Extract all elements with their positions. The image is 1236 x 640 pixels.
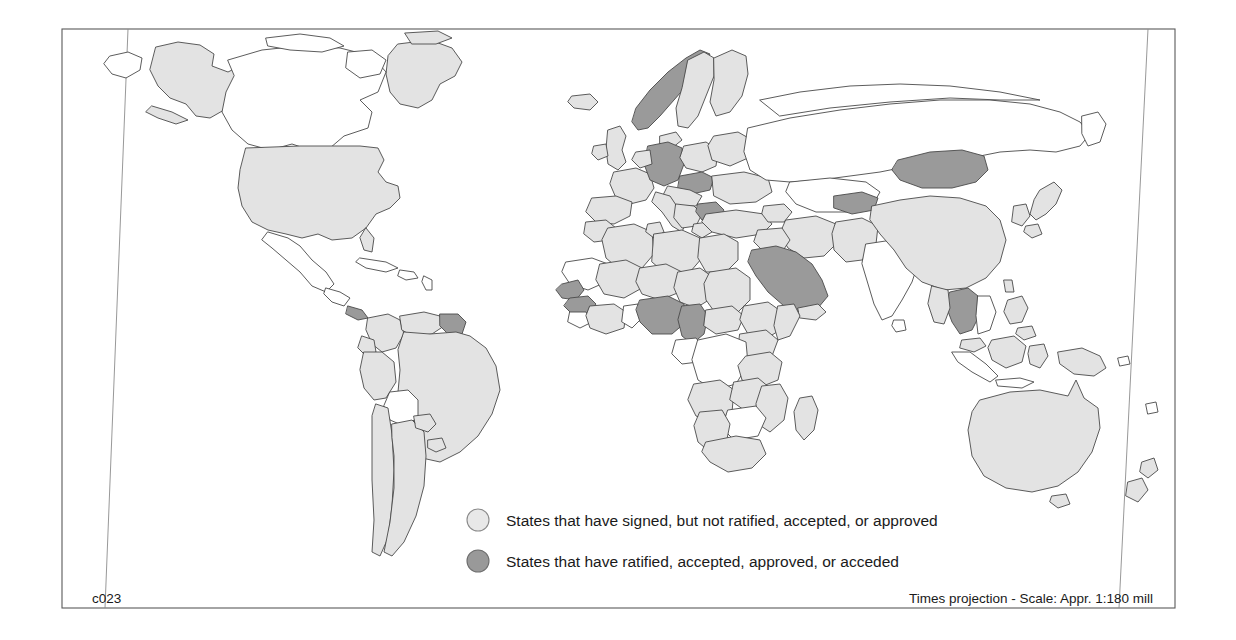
world-map-figure: States that have signed, but not ratifie… [0, 0, 1236, 640]
figure-caption: Times projection - Scale: Appr. 1:180 mi… [909, 591, 1153, 606]
legend-swatch-ratified-icon [467, 550, 489, 572]
legend-label-ratified: States that have ratified, accepted, app… [506, 553, 899, 570]
pacific-island-fiji [1146, 402, 1158, 414]
legend-label-signed: States that have signed, but not ratifie… [506, 512, 938, 529]
country-mali [596, 260, 642, 298]
pacific-islands-small [1118, 356, 1130, 366]
legend-swatch-signed-icon [467, 509, 489, 531]
country-egypt [698, 234, 738, 272]
figure-id-label: c023 [92, 591, 121, 606]
country-united-kingdom [606, 126, 626, 170]
country-taiwan [1004, 280, 1014, 292]
